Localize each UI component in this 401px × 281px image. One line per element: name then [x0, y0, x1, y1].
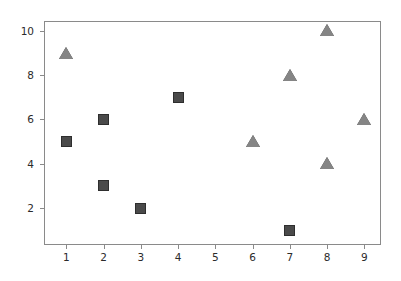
y-axis-tick-label: 2	[0, 202, 34, 214]
y-axis-tick-label: 4	[0, 158, 34, 170]
x-axis-tick	[327, 245, 328, 249]
x-axis-tick-label: 5	[200, 251, 230, 263]
x-axis-tick-label: 1	[51, 251, 81, 263]
x-axis-tick-label: 2	[89, 251, 119, 263]
x-axis-tick	[215, 245, 216, 249]
data-point-triangle	[320, 24, 334, 36]
x-axis-tick	[364, 245, 365, 249]
scatter-plot-figure: 123456789246810	[0, 0, 401, 281]
y-axis-tick-label: 10	[0, 25, 34, 37]
y-axis-tick-label: 6	[0, 113, 34, 125]
data-point-triangle	[283, 69, 297, 81]
plot-area	[44, 21, 381, 245]
x-axis-tick-label: 4	[163, 251, 193, 263]
data-point-square	[98, 114, 109, 125]
data-point-triangle	[246, 135, 260, 147]
x-axis-tick	[178, 245, 179, 249]
x-axis-tick	[66, 245, 67, 249]
data-point-triangle	[59, 47, 73, 59]
x-axis-tick-label: 8	[312, 251, 342, 263]
x-axis-tick	[290, 245, 291, 249]
x-axis-tick	[141, 245, 142, 249]
data-point-square	[135, 203, 146, 214]
x-axis-tick	[104, 245, 105, 249]
data-point-square	[61, 136, 72, 147]
y-axis-tick-label: 8	[0, 69, 34, 81]
x-axis-tick-label: 3	[126, 251, 156, 263]
x-axis-tick	[253, 245, 254, 249]
data-point-square	[98, 180, 109, 191]
x-axis-tick-label: 9	[349, 251, 379, 263]
x-axis-tick-label: 6	[238, 251, 268, 263]
data-point-square	[173, 92, 184, 103]
data-point-square	[284, 225, 295, 236]
x-axis-tick-label: 7	[275, 251, 305, 263]
data-point-triangle	[320, 157, 334, 169]
data-point-triangle	[357, 113, 371, 125]
